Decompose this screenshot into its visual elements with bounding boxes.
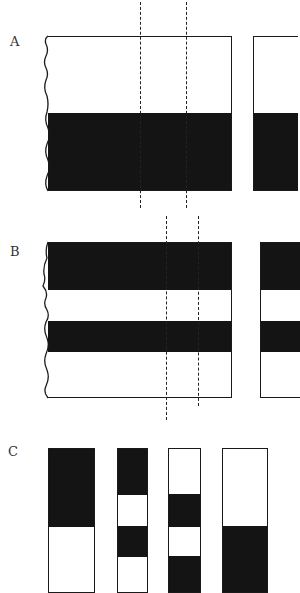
- panel-a-strip: [253, 36, 298, 191]
- panel-b-dashed-line-right: [198, 216, 199, 406]
- panel-c-bar-1-black: [49, 449, 94, 527]
- panel-c-bar-2: [117, 448, 148, 593]
- panel-c-bar-3: [168, 448, 201, 593]
- panel-c-bar-4-black: [223, 526, 267, 592]
- panel-b-dashed-line-left: [166, 216, 167, 420]
- panel-b-black-layer-2: [48, 321, 231, 352]
- panel-c-bar-3-black-2: [169, 556, 200, 592]
- panel-label-a: A: [10, 34, 19, 49]
- panel-b-strip-black-layer-2: [261, 321, 300, 352]
- panel-a-strip-black-layer: [254, 113, 298, 190]
- panel-c-bar-1: [48, 448, 95, 593]
- panel-b-strip-black-layer-1: [261, 243, 300, 290]
- panel-b-torn-edge: [40, 242, 52, 398]
- panel-label-b: B: [10, 244, 20, 259]
- panel-a-dashed-line-left: [140, 2, 141, 208]
- panel-label-c: C: [8, 444, 18, 459]
- panel-c-bar-2-black-1: [118, 449, 147, 495]
- panel-b-black-layer-1: [48, 243, 231, 290]
- panel-a-torn-edge: [40, 36, 52, 191]
- panel-c-bar-2-black-2: [118, 526, 147, 557]
- panel-b-main-box: [48, 242, 232, 398]
- panel-a-dashed-line-right: [186, 2, 187, 208]
- panel-b-strip: [260, 242, 300, 398]
- panel-c-bar-3-black-1: [169, 494, 200, 527]
- panel-c-bar-4: [222, 448, 268, 593]
